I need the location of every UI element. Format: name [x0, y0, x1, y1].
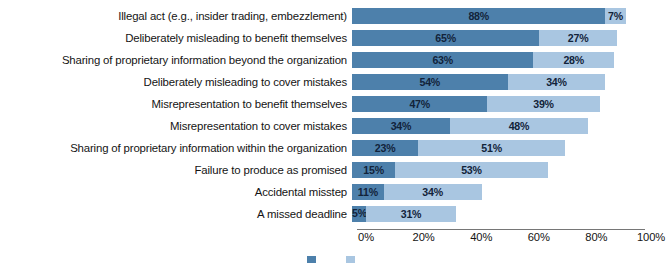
- bar-segment-series-1: 11%: [352, 184, 384, 200]
- x-tick-label: 20%: [413, 231, 435, 243]
- bar-value-label: 88%: [468, 11, 489, 22]
- x-axis-ticks: 0% 20% 40% 60% 80% 100%: [357, 231, 645, 247]
- x-tick-label: 0%: [358, 231, 374, 243]
- category-label: Deliberately misleading to cover mistake…: [0, 76, 352, 89]
- bar-segment-series-1: 34%: [352, 118, 450, 134]
- bar-value-label: 27%: [568, 33, 589, 44]
- bar-segment-series-1: 15%: [352, 162, 395, 178]
- bar-track: 65% 27%: [352, 27, 640, 49]
- chart-row: Failure to produce as promised 15% 53%: [0, 159, 666, 181]
- x-tick-label: 60%: [528, 231, 550, 243]
- stacked-bar-chart: Illegal act (e.g., insider trading, embe…: [0, 0, 666, 263]
- bar-track: 15% 53%: [352, 159, 640, 181]
- bar-value-label: 11%: [358, 187, 378, 198]
- bar-value-label: 23%: [375, 143, 396, 154]
- legend-item: [307, 256, 320, 263]
- bar-value-label: 48%: [509, 121, 530, 132]
- x-tick-label: 100%: [637, 231, 665, 243]
- bar-value-label: 54%: [419, 77, 440, 88]
- bar-value-label: 28%: [563, 55, 584, 66]
- bar-value-label: 65%: [435, 33, 456, 44]
- legend-item: [346, 256, 359, 263]
- category-label: Misrepresentation to benefit themselves: [0, 98, 352, 111]
- bar-segment-series-1: 63%: [352, 52, 533, 68]
- chart-rows: Illegal act (e.g., insider trading, embe…: [0, 5, 666, 225]
- bar-segment-series-2: 34%: [384, 184, 482, 200]
- bar-value-label: 15%: [363, 165, 384, 176]
- bar-segment-series-2: 31%: [366, 206, 455, 222]
- stacked-bar: 47% 39%: [352, 96, 600, 112]
- bar-segment-series-1: 5%: [352, 206, 366, 222]
- chart-row: Misrepresentation to cover mistakes 34% …: [0, 115, 666, 137]
- chart-row: Illegal act (e.g., insider trading, embe…: [0, 5, 666, 27]
- chart-legend: [0, 256, 666, 263]
- bar-value-label: 53%: [461, 165, 482, 176]
- bar-segment-series-2: 51%: [418, 140, 565, 156]
- stacked-bar: 34% 48%: [352, 118, 588, 134]
- stacked-bar: 65% 27%: [352, 30, 617, 46]
- bar-value-label: 5%: [352, 208, 367, 219]
- bar-segment-series-1: 88%: [352, 8, 605, 24]
- bar-track: 34% 48%: [352, 115, 640, 137]
- chart-row: Sharing of proprietary information withi…: [0, 137, 666, 159]
- category-label: Illegal act (e.g., insider trading, embe…: [0, 10, 352, 23]
- chart-row: Deliberately misleading to benefit thems…: [0, 27, 666, 49]
- bar-track: 11% 34%: [352, 181, 640, 203]
- category-label: Sharing of proprietary information withi…: [0, 142, 352, 155]
- chart-row: Accidental misstep 11% 34%: [0, 181, 666, 203]
- stacked-bar: 15% 53%: [352, 162, 548, 178]
- category-label: Deliberately misleading to benefit thems…: [0, 32, 352, 45]
- bar-segment-series-1: 65%: [352, 30, 539, 46]
- legend-swatch-icon: [307, 256, 316, 263]
- bar-segment-series-2: 48%: [450, 118, 588, 134]
- bar-segment-series-2: 34%: [508, 74, 606, 90]
- bar-track: 63% 28%: [352, 49, 640, 71]
- bar-track: 47% 39%: [352, 93, 640, 115]
- category-label: Failure to produce as promised: [0, 164, 352, 177]
- bar-value-label: 31%: [401, 209, 422, 220]
- bar-value-label: 34%: [422, 187, 443, 198]
- stacked-bar: 54% 34%: [352, 74, 605, 90]
- chart-row: Sharing of proprietary information beyon…: [0, 49, 666, 71]
- bar-segment-series-1: 23%: [352, 140, 418, 156]
- bar-track: 88% 7%: [352, 5, 640, 27]
- category-label: Accidental misstep: [0, 186, 352, 199]
- stacked-bar: 5% 31%: [352, 206, 456, 222]
- bar-segment-series-1: 47%: [352, 96, 487, 112]
- stacked-bar: 63% 28%: [352, 52, 614, 68]
- category-label: A missed deadline: [0, 208, 352, 221]
- bar-value-label: 7%: [608, 11, 623, 22]
- bar-segment-series-2: 53%: [395, 162, 548, 178]
- bar-segment-series-1: 54%: [352, 74, 508, 90]
- bar-value-label: 47%: [409, 99, 430, 110]
- bar-segment-series-2: 7%: [605, 8, 625, 24]
- bar-value-label: 34%: [391, 121, 412, 132]
- bar-value-label: 39%: [533, 99, 554, 110]
- stacked-bar: 23% 51%: [352, 140, 565, 156]
- bar-value-label: 51%: [481, 143, 502, 154]
- chart-row: A missed deadline 5% 31%: [0, 203, 666, 225]
- bar-segment-series-2: 27%: [539, 30, 617, 46]
- bar-track: 54% 34%: [352, 71, 640, 93]
- stacked-bar: 11% 34%: [352, 184, 482, 200]
- category-label: Misrepresentation to cover mistakes: [0, 120, 352, 133]
- legend-swatch-icon: [346, 256, 355, 263]
- x-tick-label: 40%: [470, 231, 492, 243]
- bar-segment-series-2: 39%: [487, 96, 599, 112]
- category-label: Sharing of proprietary information beyon…: [0, 54, 352, 67]
- bar-track: 23% 51%: [352, 137, 640, 159]
- bar-track: 5% 31%: [352, 203, 640, 225]
- x-axis-line: [357, 229, 645, 230]
- chart-row: Deliberately misleading to cover mistake…: [0, 71, 666, 93]
- chart-row: Misrepresentation to benefit themselves …: [0, 93, 666, 115]
- bar-segment-series-2: 28%: [533, 52, 614, 68]
- bar-value-label: 34%: [546, 77, 567, 88]
- x-tick-label: 80%: [585, 231, 607, 243]
- bar-value-label: 63%: [432, 55, 453, 66]
- stacked-bar: 88% 7%: [352, 8, 626, 24]
